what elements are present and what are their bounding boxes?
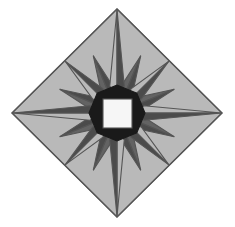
center-square (103, 99, 132, 128)
center-square-group (103, 99, 132, 128)
compass-rose-svg (0, 0, 235, 227)
compass-quilt-figure: Mariner's Compass Star Quilt Block Sixte… (0, 0, 235, 227)
